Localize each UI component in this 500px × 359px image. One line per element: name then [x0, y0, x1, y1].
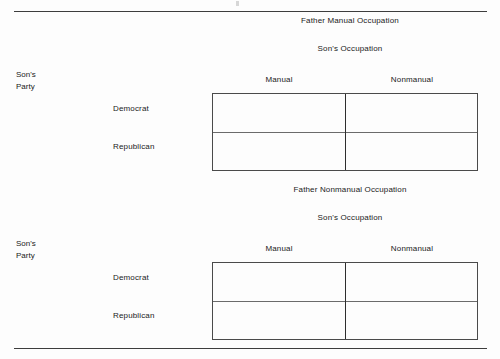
grid-vertical-divider — [345, 94, 346, 170]
data-grid — [212, 262, 478, 340]
corner-label-line-1: Son's — [16, 69, 36, 81]
panel-title: Father Nonmanual Occupation — [294, 184, 407, 195]
panel-subtitle: Son's Occupation — [318, 43, 383, 54]
data-cell[interactable] — [213, 263, 345, 301]
column-header-nonmanual: Nonmanual — [391, 243, 433, 254]
corner-label-line-1: Son's — [16, 238, 36, 250]
corner-label-sons-party: Son's Party — [16, 69, 36, 93]
column-header-manual: Manual — [265, 74, 292, 85]
data-cell[interactable] — [346, 94, 478, 132]
grid-vertical-divider — [345, 263, 346, 339]
data-cell[interactable] — [213, 302, 345, 340]
column-header-nonmanual: Nonmanual — [391, 74, 433, 85]
data-cell[interactable] — [213, 94, 345, 132]
data-cell[interactable] — [346, 302, 478, 340]
data-grid — [212, 93, 478, 171]
panel-subtitle: Son's Occupation — [318, 212, 383, 223]
panel-title: Father Manual Occupation — [301, 15, 399, 26]
scan-artifact — [236, 1, 239, 6]
row-label-democrat: Democrat — [113, 272, 149, 283]
data-cell[interactable] — [346, 263, 478, 301]
data-cell[interactable] — [346, 133, 478, 171]
column-header-manual: Manual — [265, 243, 292, 254]
row-label-democrat: Democrat — [113, 103, 149, 114]
bottom-horizontal-rule — [14, 348, 487, 349]
corner-label-line-2: Party — [16, 250, 36, 262]
corner-label-sons-party: Son's Party — [16, 238, 36, 262]
data-cell[interactable] — [213, 133, 345, 171]
corner-label-line-2: Party — [16, 81, 36, 93]
row-label-republican: Republican — [113, 141, 155, 152]
row-label-republican: Republican — [113, 310, 155, 321]
top-horizontal-rule — [14, 11, 487, 12]
document-page: Father Manual Occupation Son's Occupatio… — [0, 0, 500, 359]
